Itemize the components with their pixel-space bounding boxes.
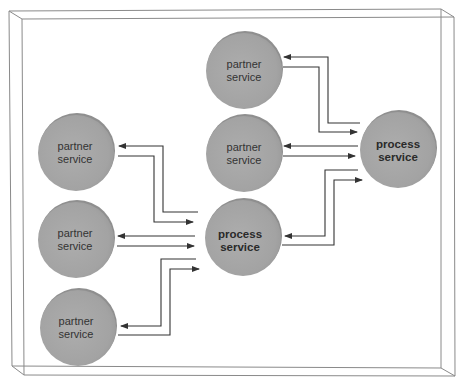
node-label-line2: service <box>220 241 260 253</box>
node-partner-mid-right: partner service <box>206 114 283 192</box>
node-label-line2: service <box>378 151 418 163</box>
node-label-line1: process <box>376 138 420 150</box>
arrow-partner-top-to-process-right <box>283 67 357 132</box>
frame-corner-br <box>441 368 455 376</box>
node-partner-top: partner service <box>206 31 283 109</box>
node-label-line1: partner <box>58 227 93 239</box>
node-label-line2: service <box>59 328 94 340</box>
process-service-circle <box>360 112 436 188</box>
node-label-line2: service <box>227 71 262 83</box>
frame-corner-tr <box>441 9 454 17</box>
node-partner-left-2: partner service <box>38 200 115 278</box>
node-label-line1: partner <box>59 315 94 327</box>
arrow-process-center-to-process-right <box>282 180 362 245</box>
node-partner-left-1: partner service <box>38 113 115 191</box>
service-composition-diagram: partner service partner service process … <box>0 0 466 383</box>
frame-corner-tl <box>9 11 22 19</box>
node-label-line1: partner <box>227 58 262 70</box>
node-label-line2: service <box>227 154 262 166</box>
node-process-right: process service <box>360 110 437 188</box>
node-label-line1: partner <box>227 141 262 153</box>
node-label-line2: service <box>58 240 93 252</box>
arrow-partner-left-3-to-process-center <box>118 269 199 335</box>
node-label-line2: service <box>58 153 93 165</box>
node-process-center: process service <box>205 198 282 276</box>
node-partner-left-3: partner service <box>40 288 117 366</box>
node-label-line1: process <box>218 228 262 240</box>
frame-corner-bl <box>12 366 24 375</box>
node-label-line1: partner <box>58 140 93 152</box>
